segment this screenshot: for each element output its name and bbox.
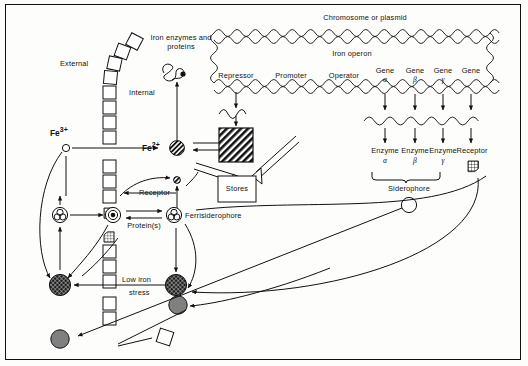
- periplasmic-ferrisiderophore: [166, 207, 181, 222]
- receptor-product-glyph: [468, 161, 478, 172]
- label-proteins: Protein(s): [127, 221, 161, 230]
- label-gene-gamma: Gene: [434, 66, 453, 75]
- label-enzyme-alpha: Enzyme: [371, 146, 399, 155]
- label-ferrisiderophore: Ferrisiderophore: [185, 211, 242, 220]
- cytoplasmic-ferrisiderophore: [105, 207, 120, 222]
- apo-siderophore-protein: [52, 207, 67, 222]
- label-membrane-receptor: Receptor: [139, 188, 170, 197]
- ferrous-symbol: Fe: [142, 143, 152, 153]
- equilibrium-protein-binding: [126, 211, 162, 218]
- diagram-canvas: External Internal Iron enzymes and prote…: [0, 0, 528, 366]
- ferrous-ion-internal: [170, 141, 185, 156]
- label-gene-beta: Gene: [406, 66, 425, 75]
- repressor-mrna: [219, 110, 246, 119]
- small-ferrous-particle: [174, 177, 181, 184]
- label-promoter: Promoter: [275, 71, 307, 80]
- repressor-protein-box: [219, 128, 253, 162]
- label-receptor-product: Receptor: [456, 146, 487, 155]
- diagram-artwork: [0, 0, 528, 366]
- label-internal: Internal: [129, 88, 155, 97]
- label-enzyme-gamma: Enzyme: [429, 146, 457, 155]
- label-gene-beta-subscript: β: [413, 75, 417, 84]
- label-stores: Stores: [226, 184, 248, 193]
- arrow-repressor-to-operator: [252, 136, 299, 184]
- label-enzyme-alpha-subscript: α: [383, 156, 387, 165]
- dark-particle-left: [49, 274, 70, 295]
- label-gene-receptor: Gene: [462, 66, 481, 75]
- curve-receptor-to-dark: [68, 225, 108, 278]
- iron-enzyme-squiggle: [163, 64, 186, 81]
- ferric-charge: 3+: [60, 126, 68, 133]
- line-receptor-label: [186, 172, 198, 186]
- label-chromosome-or-plasmid: Chromosome or plasmid: [323, 13, 407, 22]
- label-ferric-ion: Fe3+: [50, 126, 68, 138]
- membrane-receptor-lower: [104, 232, 114, 242]
- curve-to-gray-right: [190, 268, 330, 306]
- label-enzyme-beta: Enzyme: [401, 146, 429, 155]
- label-operator: Operator: [329, 71, 359, 80]
- siderophore-brace: [372, 172, 440, 183]
- transcription-arrows: [385, 94, 471, 110]
- gray-particle-bottom-left: [51, 330, 69, 348]
- ferric-ion-external: [62, 144, 69, 151]
- label-gene-alpha: Gene: [376, 66, 395, 75]
- label-iron-operon: Iron operon: [332, 49, 371, 58]
- label-enzyme-beta-subscript: β: [413, 156, 417, 165]
- label-gene-gamma-subscript: γ: [441, 75, 444, 84]
- label-ferrous-ion: Fe2+: [142, 141, 160, 153]
- line-bottom-diagonal: [118, 310, 186, 344]
- label-external: External: [60, 59, 88, 68]
- operon-mrna: [364, 117, 478, 125]
- label-repressor-gene: Repressor: [218, 71, 253, 80]
- dark-particle-right: [165, 274, 186, 295]
- label-low-iron-line2: stress: [129, 288, 150, 297]
- label-iron-enzymes-and-proteins: Iron enzymes and proteins: [148, 33, 214, 51]
- label-gene-alpha-subscript: α: [383, 75, 387, 84]
- ferrous-charge: 2+: [152, 141, 160, 148]
- curve-ferri-to-dark-right: [185, 224, 196, 288]
- label-siderophore: Siderophore: [388, 184, 430, 193]
- ferric-symbol: Fe: [50, 128, 60, 138]
- translation-arrows: [385, 128, 471, 143]
- label-enzyme-gamma-subscript: γ: [441, 156, 444, 165]
- chromosome-dna: [211, 30, 500, 94]
- label-low-iron-line1: Low iron: [122, 275, 151, 284]
